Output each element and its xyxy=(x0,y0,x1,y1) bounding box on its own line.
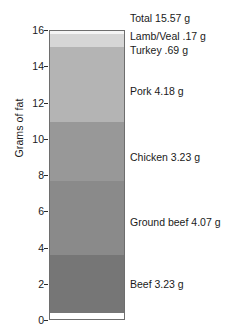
y-tick-mark-4 xyxy=(44,248,48,249)
bar-segment-ground-beef xyxy=(50,181,124,255)
y-tick-mark-16 xyxy=(44,30,48,31)
y-tick-label-2: 2 xyxy=(10,279,44,290)
stacked-bar xyxy=(49,30,125,320)
y-axis: 0246810121416 xyxy=(0,0,44,334)
y-tick-label-8: 8 xyxy=(10,170,44,181)
y-tick-label-16: 16 xyxy=(10,25,44,36)
y-tick-mark-10 xyxy=(44,139,48,140)
bar-segment-pork xyxy=(50,47,124,123)
y-tick-label-6: 6 xyxy=(10,206,44,217)
y-tick-mark-12 xyxy=(44,103,48,104)
segment-label-beef: Beef 3.23 g xyxy=(130,278,184,290)
segment-label-ground-beef: Ground beef 4.07 g xyxy=(130,216,221,228)
y-tick-mark-14 xyxy=(44,66,48,67)
y-tick-label-4: 4 xyxy=(10,243,44,254)
y-tick-label-10: 10 xyxy=(10,134,44,145)
y-tick-label-0: 0 xyxy=(10,315,44,326)
segment-label-chicken: Chicken 3.23 g xyxy=(130,151,200,163)
segment-label-pork: Pork 4.18 g xyxy=(130,85,184,97)
y-tick-mark-6 xyxy=(44,211,48,212)
total-label: Total 15.57 g xyxy=(130,12,190,24)
stacked-bar-chart: Grams of fat 0246810121416 Total 15.57 g… xyxy=(0,0,233,334)
bar-segment-chicken xyxy=(50,122,124,181)
bar-segment-beef xyxy=(50,255,124,314)
segment-label-lamb-veal: Lamb/Veal .17 g xyxy=(130,30,206,42)
y-tick-mark-8 xyxy=(44,175,48,176)
bar-segment-turkey xyxy=(50,34,124,47)
y-tick-label-12: 12 xyxy=(10,98,44,109)
y-tick-label-14: 14 xyxy=(10,61,44,72)
segment-label-turkey: Turkey .69 g xyxy=(130,44,188,56)
y-tick-mark-0 xyxy=(44,320,48,321)
y-tick-mark-2 xyxy=(44,284,48,285)
